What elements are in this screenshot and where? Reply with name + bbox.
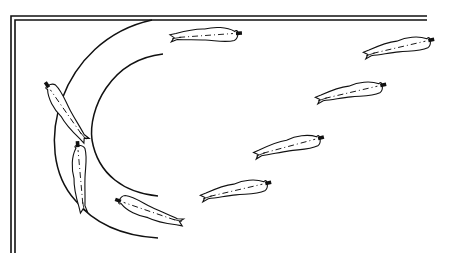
figure-6 [113, 192, 186, 230]
figure-1 [170, 26, 243, 44]
figure-4 [252, 130, 325, 162]
diagram-canvas [0, 0, 450, 264]
figure-5 [199, 175, 272, 204]
figures-group [40, 26, 436, 230]
figure-7 [70, 141, 90, 214]
inner-arc [92, 54, 163, 196]
figure-3 [314, 77, 387, 106]
figure-2 [362, 32, 435, 61]
